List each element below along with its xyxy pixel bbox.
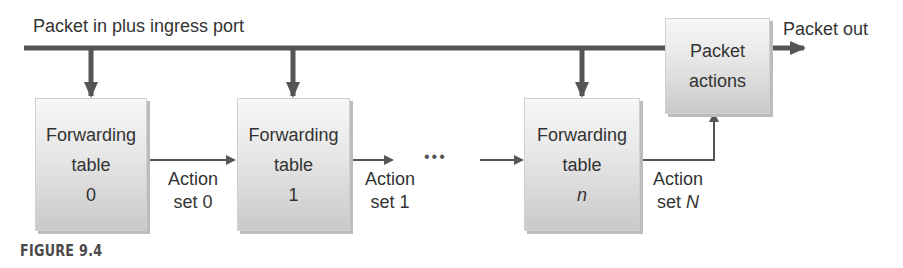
table-0-line1: Forwarding (46, 120, 136, 150)
table-n-index: n (577, 180, 587, 210)
table-1-line1: Forwarding (248, 120, 338, 150)
action-set-1-line2: set 1 (355, 191, 425, 214)
forwarding-table-1: Forwarding table 1 (237, 98, 350, 231)
packet-actions-line1: Packet (690, 36, 745, 66)
table-0-line2: table (71, 150, 110, 180)
packet-actions-line2: actions (689, 66, 746, 96)
action-set-n-line1: Action (643, 168, 713, 191)
arrow-tablen-to-packet-actions (640, 114, 714, 160)
action-set-0-line2: set 0 (153, 191, 233, 214)
ellipsis: ••• (424, 148, 447, 166)
action-set-0-label: Action set 0 (153, 168, 233, 214)
output-label: Packet out (783, 19, 868, 40)
action-set-0-line1: Action (153, 168, 233, 191)
packet-actions-box: Packet actions (665, 18, 770, 114)
figure-caption: FIGURE 9.4 (20, 242, 102, 260)
table-1-index: 1 (288, 180, 298, 210)
action-set-n-line2: set N (643, 191, 713, 214)
table-1-line2: table (274, 150, 313, 180)
forwarding-table-n: Forwarding table n (524, 98, 640, 231)
table-0-index: 0 (86, 180, 96, 210)
input-label: Packet in plus ingress port (33, 16, 244, 37)
table-n-line2: table (562, 150, 601, 180)
forwarding-table-0: Forwarding table 0 (35, 98, 147, 231)
table-n-line1: Forwarding (537, 120, 627, 150)
action-set-1-line1: Action (355, 168, 425, 191)
action-set-1-label: Action set 1 (355, 168, 425, 214)
action-set-n-label: Action set N (643, 168, 713, 214)
